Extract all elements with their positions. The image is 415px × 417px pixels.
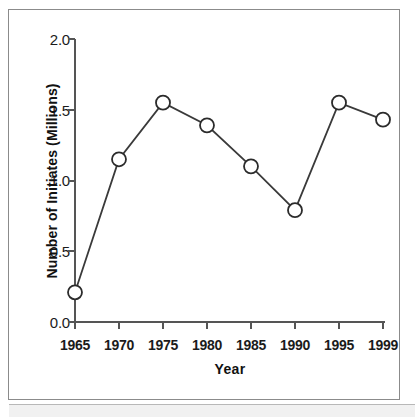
series-markers bbox=[68, 96, 390, 300]
data-point-1990 bbox=[288, 203, 302, 217]
data-point-1995 bbox=[332, 96, 346, 110]
data-point-1965 bbox=[68, 285, 82, 299]
data-point-1975 bbox=[156, 96, 170, 110]
data-point-1999 bbox=[376, 113, 390, 127]
y-axis-ticks bbox=[68, 39, 75, 322]
series-line-number-of-initiates bbox=[75, 103, 383, 293]
data-point-1985 bbox=[244, 159, 258, 173]
x-axis-ticks bbox=[75, 322, 383, 329]
axis-lines bbox=[75, 39, 385, 322]
data-point-1980 bbox=[200, 118, 214, 132]
data-point-1970 bbox=[112, 152, 126, 166]
